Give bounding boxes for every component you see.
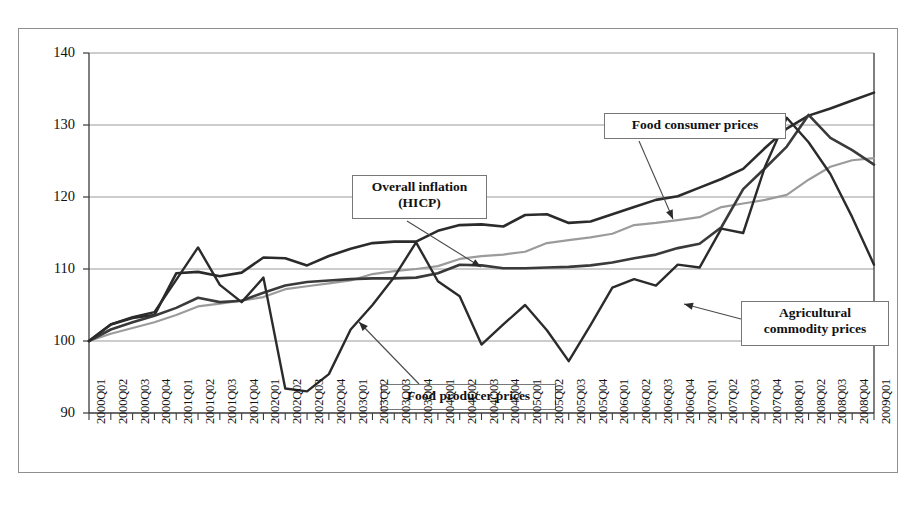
x-tick-label: 2001Q04	[247, 379, 262, 424]
y-tick-label: 90	[33, 404, 75, 421]
x-tick-label: 2000Q03	[138, 379, 153, 424]
x-tick-label: 2004Q01	[443, 379, 458, 424]
x-tick-label: 2008Q02	[814, 379, 829, 424]
x-tick-label: 2002Q02	[290, 379, 305, 424]
x-tick-label: 2002Q04	[334, 379, 349, 424]
series-line-agricultural-commodity-prices	[89, 118, 874, 392]
chart-screenshot: Food consumer pricesOverall inflation (H…	[0, 0, 918, 523]
x-tick-label: 2001Q01	[181, 379, 196, 424]
x-tick-label: 2005Q04	[596, 379, 611, 424]
y-tick-label: 130	[33, 116, 75, 133]
annotation-arrow-food-producer-prices	[359, 322, 419, 384]
x-tick-label: 2006Q01	[617, 379, 632, 424]
x-tick-label: 2007Q04	[770, 379, 785, 424]
x-tick-label: 2006Q04	[683, 379, 698, 424]
y-tick-label: 110	[33, 260, 75, 277]
annotation-label-overall-inflation-hicp: Overall inflation (HICP)	[352, 175, 487, 219]
x-tick-label: 2007Q03	[748, 379, 763, 424]
annotation-label-agricultural-commodity-prices: Agricultural commodity prices	[741, 301, 889, 346]
annotation-arrow-food-consumer-prices	[639, 141, 673, 219]
x-tick-label: 2005Q02	[552, 379, 567, 424]
annotation-arrow-agricultural-commodity-prices	[684, 303, 741, 319]
x-tick-label: 2000Q01	[94, 379, 109, 424]
x-tick-label: 2001Q03	[225, 379, 240, 424]
x-tick-label: 2005Q03	[574, 379, 589, 424]
x-tick-label: 2007Q01	[705, 379, 720, 424]
x-tick-label: 2002Q01	[268, 379, 283, 424]
x-tick-label: 2003Q02	[377, 379, 392, 424]
y-tick-label: 140	[33, 44, 75, 61]
x-tick-label: 2001Q02	[203, 379, 218, 424]
annotation-label-food-consumer-prices: Food consumer prices	[604, 113, 786, 139]
y-tick-label: 120	[33, 188, 75, 205]
x-tick-label: 2006Q03	[661, 379, 676, 424]
x-tick-label: 2007Q02	[726, 379, 741, 424]
x-tick-label: 2006Q02	[639, 379, 654, 424]
x-tick-label: 2003Q03	[399, 379, 414, 424]
x-tick-label: 2000Q04	[159, 379, 174, 424]
x-tick-label: 2002Q03	[312, 379, 327, 424]
figure-frame: Food consumer pricesOverall inflation (H…	[18, 28, 898, 473]
x-tick-label: 2004Q03	[487, 379, 502, 424]
x-tick-label: 2000Q02	[116, 379, 131, 424]
x-tick-label: 2003Q01	[356, 379, 371, 424]
y-tick-label: 100	[33, 332, 75, 349]
x-tick-label: 2009Q01	[879, 379, 894, 424]
x-tick-label: 2004Q04	[508, 379, 523, 424]
x-tick-label: 2005Q01	[530, 379, 545, 424]
x-tick-label: 2008Q03	[835, 379, 850, 424]
x-tick-label: 2008Q04	[857, 379, 872, 424]
x-tick-label: 2003Q04	[421, 379, 436, 424]
x-tick-label: 2008Q01	[792, 379, 807, 424]
x-tick-label: 2004Q02	[465, 379, 480, 424]
